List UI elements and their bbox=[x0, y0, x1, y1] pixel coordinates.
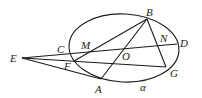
label-O: O bbox=[122, 50, 130, 62]
geometry-diagram: E C M F O A B N D G α bbox=[0, 0, 202, 98]
label-alpha: α bbox=[140, 81, 146, 93]
label-B: B bbox=[146, 6, 153, 18]
label-N: N bbox=[159, 32, 168, 44]
label-A: A bbox=[94, 83, 102, 95]
label-F: F bbox=[63, 60, 71, 72]
label-C: C bbox=[57, 43, 65, 55]
segment-EG bbox=[22, 58, 166, 67]
segment-AB bbox=[101, 19, 147, 79]
label-G: G bbox=[170, 67, 178, 79]
label-M: M bbox=[80, 39, 91, 51]
label-D: D bbox=[179, 37, 188, 49]
segment-EA bbox=[22, 58, 101, 79]
label-E: E bbox=[9, 52, 17, 64]
